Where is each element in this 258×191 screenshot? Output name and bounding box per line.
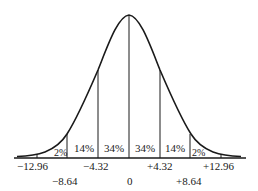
region-label-right-34: 34% [135,143,155,154]
axis-label-minus-12-96: −12.96 [17,161,48,172]
region-label-left-34: 34% [104,143,124,154]
region-label-left-tail: 2% [54,147,67,158]
axis-label-plus-4-32: +4.32 [147,161,172,172]
axis-label-plus-12-96: +12.96 [203,161,234,172]
axis-label-zero: 0 [127,176,133,187]
region-label-right-tail: 2% [192,147,205,158]
region-label-right-14: 14% [165,143,185,154]
axis-label-plus-8-64: +8.64 [176,176,201,187]
axis-label-minus-4-32: −4.32 [83,161,108,172]
axis-label-minus-8-64: −8.64 [52,176,77,187]
region-label-left-14: 14% [74,143,94,154]
